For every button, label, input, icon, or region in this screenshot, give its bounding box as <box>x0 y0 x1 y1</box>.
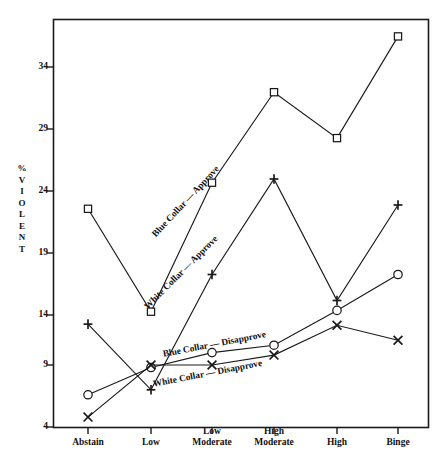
data-point-plus <box>208 270 217 280</box>
data-point-plus <box>270 174 279 184</box>
data-point-x <box>333 321 342 330</box>
data-point-circle <box>394 270 402 278</box>
data-point-circle <box>208 348 216 356</box>
series-x <box>84 321 403 422</box>
data-point-x <box>84 413 93 422</box>
series-layer <box>84 33 403 422</box>
plot-area <box>0 0 442 465</box>
data-point-square <box>84 205 91 212</box>
data-point-square <box>333 135 340 142</box>
data-point-plus <box>333 296 342 306</box>
data-point-circle <box>84 391 92 399</box>
series-line <box>88 36 398 311</box>
data-point-square <box>394 33 401 40</box>
plot-frame <box>54 20 429 428</box>
data-point-circle <box>333 306 341 314</box>
series-plus <box>84 174 403 394</box>
data-point-circle <box>270 341 278 349</box>
series-circle <box>84 270 402 399</box>
data-point-square <box>208 179 215 186</box>
data-point-x <box>394 336 403 345</box>
series-line <box>88 325 398 417</box>
series-line <box>88 275 398 395</box>
chart-figure: % V I O L E N T 34 29 24 19 14 9 4 Absta… <box>0 0 442 465</box>
data-point-square <box>270 89 277 96</box>
data-point-square <box>147 308 154 315</box>
data-point-plus <box>394 200 403 210</box>
